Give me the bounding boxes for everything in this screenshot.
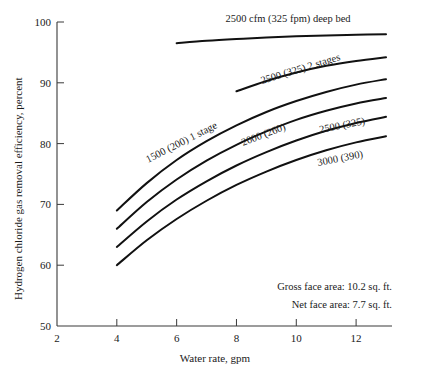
y-axis-tick-label: 100: [35, 16, 52, 28]
x-axis-tick-label: 2: [54, 332, 60, 344]
y-axis-tick-label: 60: [40, 259, 52, 271]
curve-label-2500-325: 2500 (325): [318, 115, 366, 136]
x-axis-ticks: [117, 319, 356, 326]
y-axis-tick-labels: 5060708090100: [35, 16, 52, 332]
chart-curve: [177, 34, 386, 43]
curve-label-deep-bed: 2500 cfm (325 fpm) deep bed: [225, 13, 351, 25]
y-axis-tick-label: 90: [40, 77, 52, 89]
curve-label-2stages: 2500 (325) 2 stages: [259, 51, 341, 87]
chart-container: 5060708090100 24681012 Hydrogen chloride…: [0, 0, 421, 382]
chart-svg: 5060708090100 24681012 Hydrogen chloride…: [0, 0, 421, 382]
curve-label-2000-260: 2000 (260): [240, 121, 288, 149]
note-net-face-area: Net face area: 7.7 sq. ft.: [292, 299, 392, 310]
x-axis-tick-label: 4: [114, 332, 120, 344]
x-axis-tick-label: 12: [351, 332, 362, 344]
x-axis-tick-label: 10: [291, 332, 303, 344]
y-axis-ticks: [57, 22, 64, 265]
x-axis-tick-label: 6: [174, 332, 180, 344]
y-axis-title: Hydrogen chloride gas removal efficiency…: [12, 77, 24, 300]
note-gross-face-area: Gross face area: 10.2 sq. ft.: [277, 281, 392, 292]
y-axis-tick-label: 70: [40, 198, 52, 210]
y-axis-tick-label: 80: [40, 138, 52, 150]
x-axis-tick-labels: 24681012: [54, 332, 361, 344]
x-axis-title: Water rate, gpm: [180, 352, 251, 364]
x-axis-tick-label: 8: [234, 332, 240, 344]
y-axis-tick-label: 50: [40, 320, 52, 332]
